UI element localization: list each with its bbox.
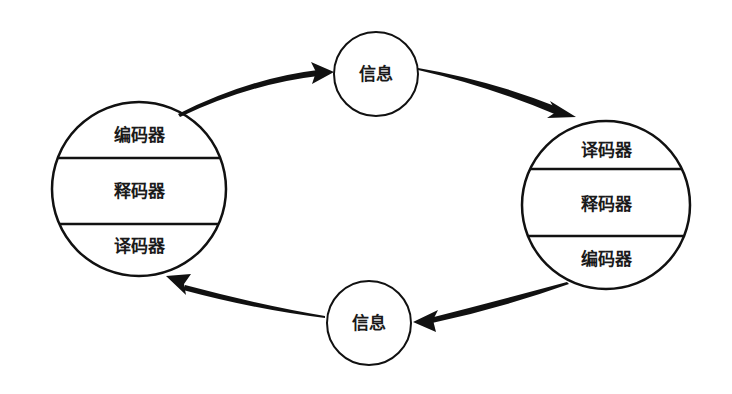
arrow-bottom-message-to-left [166,274,325,318]
arrow-left-to-top-message [178,62,334,117]
bottom-message-node: 信息 [327,281,411,365]
right-encoder-label: 编码器 [581,249,633,269]
left-party-node: 编码器 释码器 译码器 [40,102,240,276]
right-interpreter-label: 释码器 [581,194,633,214]
top-message-label: 信息 [359,64,393,84]
left-decoder-label: 译码器 [114,236,166,256]
left-interpreter-label: 释码器 [114,181,166,201]
top-message-node: 信息 [334,32,418,116]
left-encoder-label: 编码器 [114,125,166,145]
bottom-message-label: 信息 [352,313,386,333]
right-party-node: 译码器 释码器 编码器 [510,121,700,289]
right-decoder-label: 译码器 [581,140,633,160]
communication-diagram: 编码器 释码器 译码器 译码器 释码器 编码器 信息 信息 [0,0,732,394]
arrow-top-message-to-right [418,68,576,118]
arrow-right-to-bottom-message [413,282,569,332]
